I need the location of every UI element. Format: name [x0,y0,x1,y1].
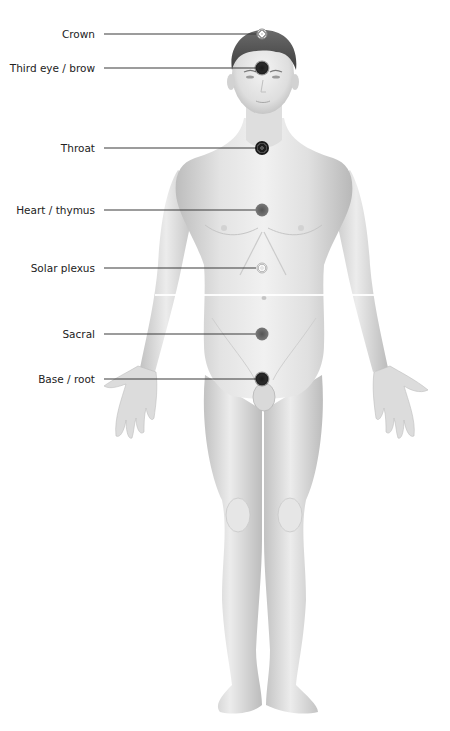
leader-line [104,34,256,35]
throat-chakra-dot [255,141,269,155]
leader-line [104,148,256,149]
chakra-label: Base / root [38,373,95,385]
chakra-label: Crown [62,28,95,40]
leader-line [104,334,256,335]
crown-chakra-dot [257,29,268,40]
leader-line [104,210,256,211]
chakra-label: Heart / thymus [16,204,95,216]
solar-plexus-chakra-dot [257,263,268,274]
heart-chakra-dot [256,204,269,217]
chakra-label: Third eye / brow [10,62,95,74]
chakra-label: Sacral [62,328,95,340]
chakra-label: Solar plexus [31,262,95,274]
base-chakra-dot [256,373,269,386]
chakra-label: Throat [61,142,95,154]
sacral-chakra-dot [256,328,269,341]
leader-line [104,379,256,380]
third-eye-chakra-dot [256,62,269,75]
leader-line [104,68,256,69]
human-body-illustration [0,0,450,731]
leader-line [104,268,256,269]
legs [204,375,323,714]
image-artifact-line [155,294,377,296]
